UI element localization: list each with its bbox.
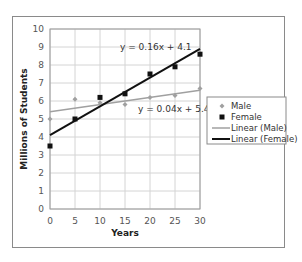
female-trend-equation: y = 0.16x + 4.1 xyxy=(120,42,192,52)
y-tick-label: 8 xyxy=(38,60,44,70)
x-axis-title: Years xyxy=(110,228,139,238)
y-tick-label: 5 xyxy=(38,114,44,124)
male-data-point xyxy=(148,95,153,100)
y-tick-label: 4 xyxy=(38,132,44,142)
female-data-point xyxy=(98,95,103,100)
legend-label: Male xyxy=(231,101,251,111)
female-data-point xyxy=(123,91,128,96)
male-data-point xyxy=(123,102,128,107)
y-tick-label: 1 xyxy=(38,186,44,196)
square-marker-icon xyxy=(220,115,225,120)
female-data-point xyxy=(73,117,78,122)
legend-label: Female xyxy=(231,112,262,122)
male-trend-equation: y = 0.04x + 5.4 xyxy=(138,104,210,114)
y-tick-label: 3 xyxy=(38,150,44,160)
x-tick-label: 20 xyxy=(144,216,156,226)
x-tick-label: 10 xyxy=(94,216,106,226)
y-tick-label: 7 xyxy=(38,78,44,88)
x-tick-label: 5 xyxy=(72,216,78,226)
legend-label: Linear (Male) xyxy=(231,123,287,133)
female-data-point xyxy=(173,64,178,69)
y-tick-label: 0 xyxy=(38,204,44,214)
scatter-chart: 012345678910051015202530 y = 0.16x + 4.1… xyxy=(0,0,302,262)
male-data-point xyxy=(48,117,53,122)
y-tick-label: 10 xyxy=(33,24,45,34)
legend: MaleFemaleLinear (Male)Linear (Female) xyxy=(207,97,298,144)
x-tick-label: 30 xyxy=(194,216,206,226)
legend-label: Linear (Female) xyxy=(231,134,298,144)
female-data-point xyxy=(48,144,53,149)
y-tick-label: 2 xyxy=(38,168,44,178)
y-tick-label: 9 xyxy=(38,42,44,52)
x-tick-label: 25 xyxy=(169,216,180,226)
female-data-point xyxy=(148,72,153,77)
grid: 012345678910051015202530 xyxy=(33,24,206,226)
x-tick-label: 0 xyxy=(47,216,53,226)
female-data-point xyxy=(198,52,203,57)
x-tick-label: 15 xyxy=(119,216,130,226)
y-tick-label: 6 xyxy=(38,96,44,106)
y-axis-title: Millions of Students xyxy=(19,68,29,169)
